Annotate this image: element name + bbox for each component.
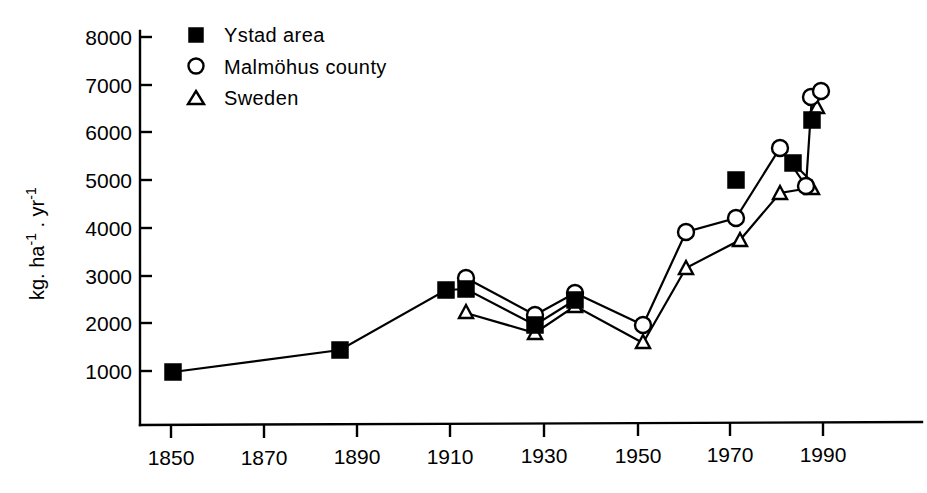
data-point-malmohus-county [728, 210, 744, 226]
y-tick-label-3000: 3000 [85, 265, 132, 288]
data-point-malmohus-county [635, 317, 651, 333]
y-axis-label-sup2: -1 [23, 187, 39, 200]
legend-label-sweden: Sweden [224, 87, 299, 109]
data-point-malmohus-county [772, 140, 788, 156]
x-tick-label-1950: 1950 [615, 444, 662, 467]
data-point-ystad-area [458, 281, 474, 297]
series-markers-sweden [459, 100, 824, 348]
x-tick-label-1870: 1870 [241, 446, 288, 469]
data-point-ystad-area [728, 172, 744, 188]
y-axis-ticks [140, 37, 152, 371]
y-axis-tick-labels: 8000 7000 6000 5000 4000 3000 2000 1000 [85, 26, 132, 383]
series-markers-ystad-area [165, 112, 820, 380]
data-point-ystad-area [165, 364, 181, 380]
y-axis-label-sup1: -1 [23, 233, 39, 246]
data-point-ystad-area [527, 317, 543, 333]
y-tick-label-6000: 6000 [85, 121, 132, 144]
x-tick-label-1930: 1930 [521, 444, 568, 467]
data-point-malmohus-county [678, 224, 694, 240]
x-axis-tick-labels: 1850 1870 1890 1910 1930 1950 1970 1990 [148, 443, 847, 469]
data-point-ystad-area [567, 292, 583, 308]
x-tick-label-1970: 1970 [707, 443, 754, 466]
legend-marker-filled-square-icon [189, 28, 203, 42]
legend-label-ystad-area: Ystad area [224, 24, 325, 46]
chart-figure: kg. ha-1 . yr-1 8000 7000 6000 5000 4000 [0, 0, 927, 493]
y-tick-label-1000: 1000 [85, 360, 132, 383]
legend-item-ystad-area: Ystad area [189, 24, 325, 46]
chart-legend: Ystad area Malmöhus county Sweden [188, 24, 387, 109]
data-point-sweden [679, 261, 693, 274]
legend-label-malmohus-county: Malmöhus county [224, 56, 387, 78]
y-tick-label-2000: 2000 [85, 312, 132, 335]
data-point-sweden [459, 305, 473, 318]
y-tick-label-4000: 4000 [85, 217, 132, 240]
x-tick-label-1850: 1850 [148, 446, 195, 469]
legend-item-malmohus-county: Malmöhus county [189, 56, 387, 78]
y-tick-label-7000: 7000 [85, 74, 132, 97]
data-point-malmohus-county [813, 83, 829, 99]
data-point-ystad-area [804, 112, 820, 128]
y-tick-label-5000: 5000 [85, 169, 132, 192]
y-tick-label-8000: 8000 [85, 26, 132, 49]
line-chart: kg. ha-1 . yr-1 8000 7000 6000 5000 4000 [0, 0, 927, 493]
series-markers-malmohus-county [458, 83, 829, 333]
x-tick-label-1990: 1990 [800, 443, 847, 466]
x-tick-label-1910: 1910 [427, 445, 474, 468]
y-axis-label-middle: . yr [26, 199, 48, 233]
svg-text:kg. ha-1 . yr-1: kg. ha-1 . yr-1 [23, 187, 48, 300]
y-axis-label-prefix: kg. ha [26, 245, 48, 300]
series-line-malmohus-county [466, 95, 812, 325]
x-tick-label-1890: 1890 [334, 445, 381, 468]
x-axis-line [140, 422, 922, 425]
legend-marker-open-triangle-icon [188, 91, 204, 104]
y-axis-label: kg. ha-1 . yr-1 [23, 187, 48, 300]
data-point-malmohus-county [798, 178, 814, 194]
series-line-ystad-area [173, 289, 575, 372]
legend-item-sweden: Sweden [188, 87, 299, 109]
series-lines [173, 95, 812, 372]
legend-marker-open-circle-icon [189, 59, 204, 74]
data-point-ystad-area [332, 342, 348, 358]
data-point-ystad-area [438, 282, 454, 298]
data-point-ystad-area [785, 155, 801, 171]
